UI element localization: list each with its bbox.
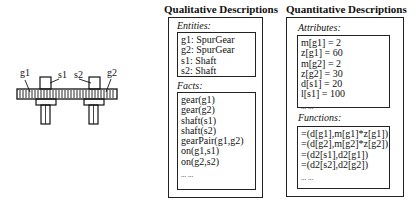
- label-g1: g1: [20, 67, 30, 78]
- entities-box: g1: SpurGear g2: SpurGear s1: Shaft s2: …: [177, 32, 256, 77]
- qualitative-title: Qualitative Descriptions: [164, 3, 278, 15]
- quantitative-title: Quantitative Descriptions: [286, 3, 407, 15]
- label-s1: s1: [58, 69, 67, 80]
- attribute-line: l[s1] = 100: [301, 89, 389, 99]
- quantitative-panel: Attributes: m[g1] = 2 z[g1] = 60 m[g2] =…: [286, 17, 404, 197]
- function-line: =(d2[s2],d2[g2]): [301, 160, 389, 170]
- label-s2: s2: [74, 69, 83, 80]
- facts-label: Facts:: [177, 80, 203, 91]
- facts-box: gear(g1) gear(g2) shaft(s1) shaft(s2) ge…: [177, 92, 256, 190]
- functions-label: Functions:: [298, 112, 341, 123]
- fact-ellipsis: ... ...: [181, 170, 255, 180]
- entity-line: s2: Shaft: [181, 66, 255, 76]
- entities-label: Entities:: [177, 20, 211, 31]
- attributes-label: Attributes:: [298, 22, 341, 33]
- functions-box: =(d[g1],m[g1]*z[g1]) =(d[g2],m[g2]*z[g2]…: [297, 126, 390, 189]
- attributes-box: m[g1] = 2 z[g1] = 60 m[g2] = 2 z[g2] = 3…: [297, 35, 390, 108]
- qualitative-panel: Entities: g1: SpurGear g2: SpurGear s1: …: [168, 17, 263, 198]
- label-g2: g2: [107, 67, 117, 78]
- gear-drawing: [0, 0, 130, 203]
- fact-line: on(g2,s2): [181, 157, 255, 167]
- attribute-ellipsis: ... ...: [301, 102, 389, 112]
- function-ellipsis: ... ...: [301, 173, 389, 183]
